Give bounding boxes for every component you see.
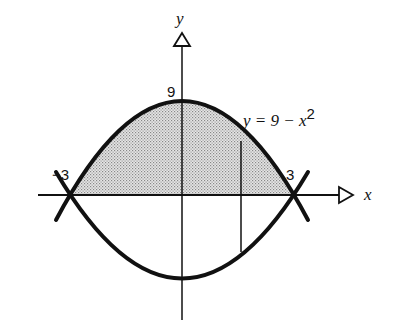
x-axis-label: x bbox=[363, 185, 372, 204]
x-axis-arrow-icon bbox=[339, 187, 353, 203]
y-axis-label: y bbox=[174, 9, 184, 28]
x-tick-neg3: −3 bbox=[52, 166, 69, 183]
y-tick-9: 9 bbox=[167, 83, 175, 100]
diagram-canvas: y x 9 −3 3 y = 9 − x2 bbox=[0, 0, 396, 334]
curve-equation-label: y = 9 − x2 bbox=[241, 105, 315, 130]
x-tick-3: 3 bbox=[286, 166, 294, 183]
y-axis-arrow-icon bbox=[174, 33, 190, 46]
